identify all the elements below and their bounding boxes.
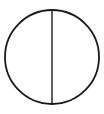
diagram-canvas	[0, 0, 104, 114]
circle-diagram	[0, 0, 104, 114]
